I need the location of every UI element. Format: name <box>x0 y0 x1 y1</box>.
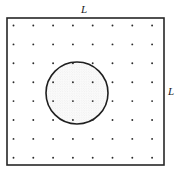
lattice-point <box>13 25 15 27</box>
lattice-point <box>112 25 114 27</box>
lattice-point <box>112 100 114 102</box>
lattice-point <box>92 138 94 140</box>
lattice-point <box>72 25 74 27</box>
lattice-point <box>151 157 153 159</box>
lattice-point <box>32 81 34 83</box>
lattice-point <box>32 25 34 27</box>
lattice-point <box>92 157 94 159</box>
lattice-point <box>151 138 153 140</box>
lattice-point <box>72 157 74 159</box>
lattice-point <box>112 157 114 159</box>
lattice-point <box>13 119 15 121</box>
lattice-point <box>13 157 15 159</box>
lattice-point <box>131 81 133 83</box>
lattice-point <box>13 81 15 83</box>
lattice-point <box>131 157 133 159</box>
lattice-point <box>92 62 94 64</box>
lattice-point <box>112 81 114 83</box>
lattice-point <box>131 119 133 121</box>
lattice-point <box>52 100 54 102</box>
lattice-point <box>92 81 94 83</box>
lattice-point <box>151 25 153 27</box>
lattice-point <box>32 119 34 121</box>
lattice-point <box>92 119 94 121</box>
lattice-point <box>52 43 54 45</box>
lattice-point <box>52 138 54 140</box>
lattice-point <box>13 43 15 45</box>
lattice-point <box>131 100 133 102</box>
figure-container: L L <box>0 0 180 178</box>
lattice-point <box>112 43 114 45</box>
lattice-point <box>52 81 54 83</box>
lattice-point <box>52 157 54 159</box>
lattice-point <box>72 81 74 83</box>
lattice-point <box>92 100 94 102</box>
circular-inclusion-group <box>46 62 108 124</box>
side-label-right: L <box>167 85 174 97</box>
lattice-point <box>52 62 54 64</box>
lattice-point <box>131 62 133 64</box>
lattice-point <box>131 25 133 27</box>
lattice-point <box>92 43 94 45</box>
lattice-point <box>151 62 153 64</box>
lattice-point <box>32 138 34 140</box>
lattice-point <box>52 25 54 27</box>
lattice-point <box>72 100 74 102</box>
lattice-point <box>52 119 54 121</box>
lattice-point <box>151 81 153 83</box>
lattice-point <box>13 138 15 140</box>
lattice-point <box>151 119 153 121</box>
lattice-point <box>32 100 34 102</box>
lattice-point <box>112 119 114 121</box>
lattice-point <box>32 43 34 45</box>
lattice-point <box>151 100 153 102</box>
lattice-point <box>32 62 34 64</box>
lattice-point <box>131 138 133 140</box>
side-label-top: L <box>80 3 87 15</box>
lattice-point <box>131 43 133 45</box>
lattice-point <box>112 138 114 140</box>
lattice-point <box>32 157 34 159</box>
lattice-point <box>72 119 74 121</box>
figure-canvas: L L <box>0 0 180 178</box>
lattice-point <box>13 62 15 64</box>
lattice-point <box>112 62 114 64</box>
lattice-point <box>151 43 153 45</box>
lattice-point <box>72 62 74 64</box>
lattice-point <box>13 100 15 102</box>
lattice-point <box>92 25 94 27</box>
lattice-point <box>72 43 74 45</box>
lattice-point <box>72 138 74 140</box>
